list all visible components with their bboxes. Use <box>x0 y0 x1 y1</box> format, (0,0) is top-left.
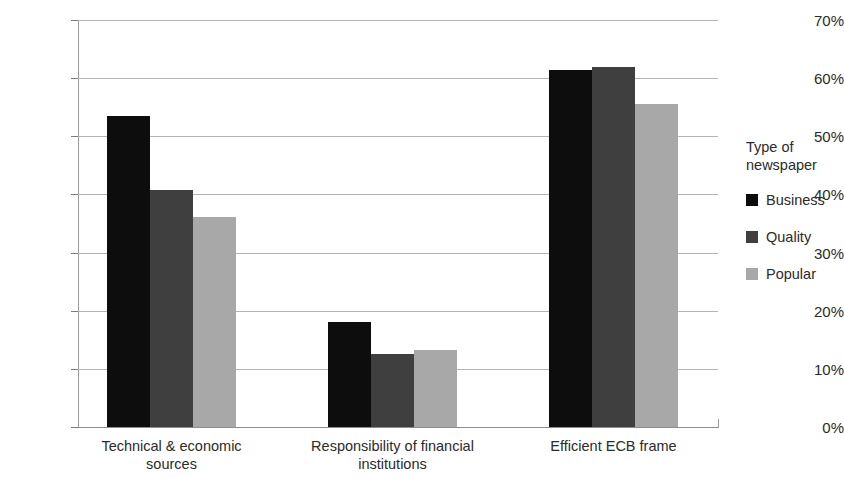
legend-items: BusinessQualityPopular <box>746 192 844 282</box>
bar <box>107 116 150 427</box>
bar <box>193 217 236 427</box>
gridline-70 <box>78 20 718 21</box>
bar <box>328 322 371 427</box>
category-label-line: sources <box>62 455 282 473</box>
legend-swatch-icon <box>746 231 758 243</box>
category-label-line: Technical & economic <box>62 437 282 455</box>
legend-title: Type of newspaper <box>746 138 844 174</box>
axis-baseline <box>78 427 718 428</box>
bar <box>371 354 414 427</box>
category-label: Responsibility of financialinstitutions <box>283 437 503 473</box>
legend-label: Quality <box>766 229 811 245</box>
legend: Type of newspaper BusinessQualityPopular <box>746 138 844 303</box>
y-axis-tick-label: 0% <box>782 419 844 436</box>
x-axis-endcap <box>718 419 719 428</box>
bar-chart: 0%10%20%30%40%50%60%70% Technical & econ… <box>0 0 844 478</box>
y-axis-tick-label: 70% <box>782 12 844 29</box>
legend-item-business: Business <box>746 192 844 208</box>
legend-label: Popular <box>766 266 816 282</box>
bar <box>150 190 193 427</box>
bar <box>635 104 678 427</box>
legend-item-popular: Popular <box>746 266 844 282</box>
legend-swatch-icon <box>746 194 758 206</box>
plot-area <box>78 20 718 427</box>
category-label-line: Efficient ECB frame <box>504 437 724 455</box>
category-label-line: institutions <box>283 455 503 473</box>
y-axis-tick-label: 60% <box>782 70 844 87</box>
bar <box>592 67 635 427</box>
legend-swatch-icon <box>746 268 758 280</box>
category-label-line: Responsibility of financial <box>283 437 503 455</box>
category-label: Efficient ECB frame <box>504 437 724 455</box>
y-axis-tick-label: 20% <box>782 302 844 319</box>
y-axis-tick-label: 10% <box>782 360 844 377</box>
category-label: Technical & economicsources <box>62 437 282 473</box>
bar <box>414 350 457 427</box>
legend-item-quality: Quality <box>746 229 844 245</box>
bar <box>549 70 592 427</box>
legend-label: Business <box>766 192 825 208</box>
